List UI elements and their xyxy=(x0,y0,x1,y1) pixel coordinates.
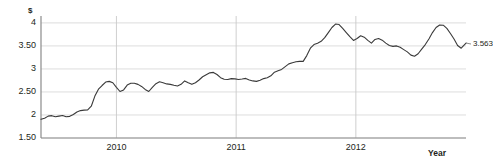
y-tick-label: 2 xyxy=(2,109,36,119)
y-tick-label: 1.50 xyxy=(2,132,36,142)
y-tick-label: 4 xyxy=(2,17,36,27)
y-tick-label: 3 xyxy=(2,63,36,73)
endpoint-value-label: 3.563 xyxy=(473,39,493,48)
y-tick-label: 2.50 xyxy=(2,86,36,96)
vertical-gridlines xyxy=(116,16,355,138)
endpoint-leader-line xyxy=(466,43,471,44)
x-tick-label: 2011 xyxy=(211,142,261,152)
y-axis-unit-label: $ xyxy=(28,6,32,15)
x-tick-label: 2010 xyxy=(91,142,141,152)
series-line-price xyxy=(41,24,466,119)
y-tick-label: 3.50 xyxy=(2,40,36,50)
x-axis-title: Year xyxy=(428,148,446,158)
x-tick-label: 2012 xyxy=(331,142,381,152)
